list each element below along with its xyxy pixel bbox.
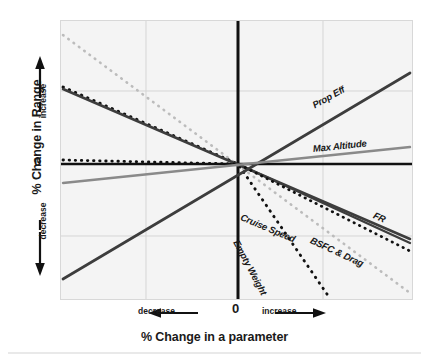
- x-axis-increase-label: increase: [262, 306, 297, 316]
- plot-area: Prop Eff Max Altitude Cruise Speed BSFC …: [60, 20, 413, 300]
- series-line-empty-weight: [63, 87, 329, 297]
- y-axis-increase-label: increase: [38, 71, 48, 131]
- x-axis-decrease-label: decrease: [138, 306, 175, 316]
- x-axis-zero-label: 0: [232, 301, 239, 316]
- page-bottom-rule: [8, 352, 421, 354]
- chart-figure: % Change in Range increase decrease 0: [0, 0, 429, 358]
- y-axis-zero-label: 0: [34, 154, 41, 169]
- y-axis-decrease-label: decrease: [38, 191, 48, 251]
- x-axis-title: % Change in a parameter: [0, 330, 429, 344]
